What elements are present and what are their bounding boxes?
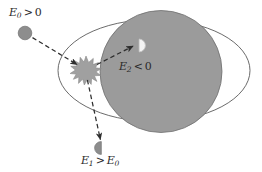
label-e1-operator: >	[94, 154, 106, 167]
figure-root: E0>0 E2<0 E1>E0	[0, 0, 262, 172]
label-e2-subscript: 2	[127, 65, 132, 74]
figure-canvas	[0, 0, 262, 172]
label-e2-less-than-zero: E2<0	[119, 61, 152, 72]
label-e2-operator: <	[132, 60, 144, 73]
label-e2-value: 0	[145, 60, 152, 73]
collision-burst	[70, 56, 101, 85]
ejected-particle-halfdisc	[95, 142, 108, 155]
label-e1-subscript: 1	[89, 159, 94, 168]
label-e1-value-subscript: 0	[114, 159, 119, 168]
label-e1-greater-than-e0: E1>E0	[81, 155, 120, 166]
arrow-incoming	[33, 38, 78, 65]
label-e0-greater-than-zero: E0>0	[9, 7, 42, 18]
label-e0-subscript: 0	[17, 11, 22, 20]
label-e2-symbol: E	[119, 60, 127, 73]
label-e1-symbol: E	[81, 154, 89, 167]
label-e0-operator: >	[22, 6, 34, 19]
arrow-ejected	[87, 80, 100, 140]
label-e0-symbol: E	[9, 6, 17, 19]
label-e0-value: 0	[35, 6, 42, 19]
incoming-particle	[18, 26, 32, 40]
